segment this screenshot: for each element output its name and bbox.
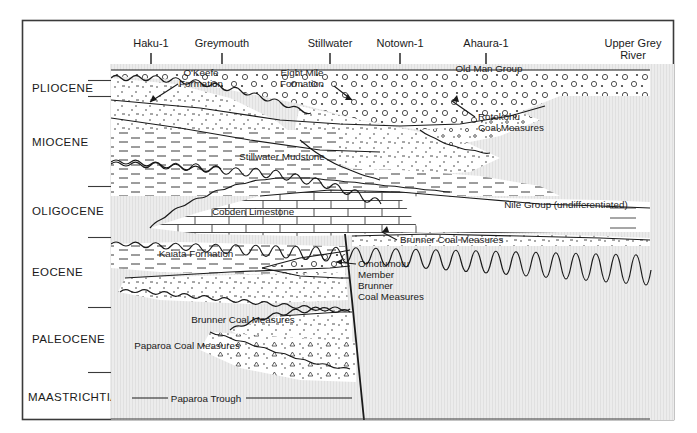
formation-label-rotokohu-line1: Rotokohu — [478, 111, 520, 122]
cross-section-canvas: PLIOCENE MIOCENE OLIGOCENE EOCENE PALEOC… — [0, 0, 697, 433]
well-label-upper-grey-river: Upper Grey — [605, 37, 662, 49]
formation-label-omotumotu-line1: Omotumotu — [358, 258, 409, 269]
epoch-label-paleocene: PALEOCENE — [32, 333, 105, 345]
epoch-label-miocene: MIOCENE — [32, 136, 88, 148]
formation-label-cobden-limestone: Cobden Limestone — [212, 206, 295, 217]
well-label-upper-grey-river-line2: River — [620, 49, 646, 61]
formation-label-old-man-group: Old Man Group — [456, 63, 524, 74]
formation-label-brunner-inner-line2: Coal Measures — [358, 291, 424, 302]
formation-label-brunner-right: Brunner Coal Measures — [400, 234, 504, 245]
epoch-label-oligocene: OLIGOCENE — [32, 205, 104, 217]
formation-label-brunner-inner-line1: Brunner — [358, 280, 394, 291]
well-label-ahaura-1: Ahaura-1 — [463, 37, 508, 49]
formation-label-okeefe-line1: O'Keefe — [183, 67, 219, 78]
well-label-greymouth: Greymouth — [195, 37, 249, 49]
epoch-label-eocene: EOCENE — [32, 266, 83, 278]
formation-label-okeefe-line2: Formation — [179, 78, 223, 89]
formation-label-kaiata-formation: Kaiata Formation — [159, 248, 234, 259]
well-label-notown-1: Notown-1 — [376, 37, 423, 49]
cross-section-figure: PLIOCENE MIOCENE OLIGOCENE EOCENE PALEOC… — [0, 0, 697, 433]
formation-label-eightmile-line2: Formation — [280, 78, 324, 89]
well-label-stillwater: Stillwater — [308, 37, 353, 49]
formation-label-stillwater-mudstone: Stillwater Mudstone — [239, 151, 325, 162]
well-label-haku-1: Haku-1 — [133, 37, 168, 49]
formation-label-eightmile-line1: Eight Mile — [280, 67, 324, 78]
formation-label-paparoa-coal-measures: Paparoa Coal Measures — [134, 340, 240, 351]
epoch-label-pliocene: PLIOCENE — [32, 82, 93, 94]
formation-label-nile-group: Nile Group (undifferentiated) — [504, 199, 627, 210]
formation-label-paparoa-trough: Paparoa Trough — [171, 393, 241, 404]
formation-label-omotumotu-line2: Member — [358, 269, 395, 280]
formation-label-rotokohu-line2: Coal Measures — [478, 122, 544, 133]
stratigraphic-panel — [111, 64, 674, 420]
formation-label-brunner-lower: Brunner Coal Measures — [191, 314, 295, 325]
